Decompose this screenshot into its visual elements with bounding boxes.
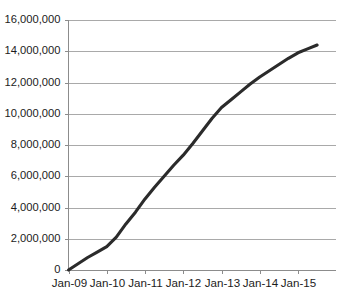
y-axis-tick-label: 10,000,000 (5, 107, 61, 119)
line-chart: 16,000,00014,000,00012,000,00010,000,000… (0, 0, 342, 297)
y-axis-tick-label: 0 (54, 263, 60, 275)
x-axis-tick-labels: Jan-09Jan-10Jan-11Jan-12Jan-13Jan-14Jan-… (52, 276, 316, 289)
x-axis-tick-label: Jan-13 (205, 276, 240, 289)
y-axis-tick-label: 2,000,000 (11, 232, 61, 244)
x-axis-tick-label: Jan-10 (90, 276, 125, 289)
x-axis-tick-label: Jan-12 (166, 276, 201, 289)
y-axis-tick-label: 16,000,000 (5, 13, 61, 25)
x-axis-tick-label: Jan-15 (281, 276, 316, 289)
y-axis-tick-label: 4,000,000 (11, 201, 61, 213)
x-axis-tick-label: Jan-11 (128, 276, 163, 289)
chart-container: 16,000,00014,000,00012,000,00010,000,000… (0, 0, 342, 297)
y-axis-tick-label: 14,000,000 (5, 44, 61, 56)
data-series-line (69, 45, 318, 270)
x-axis-tick-label: Jan-09 (52, 276, 87, 289)
x-axis-tick-label: Jan-14 (243, 276, 279, 289)
y-axis-tick-label: 6,000,000 (11, 169, 61, 181)
gridlines (69, 21, 337, 271)
y-axis-tick-label: 8,000,000 (11, 138, 61, 150)
y-axis-tick-label: 12,000,000 (5, 76, 61, 88)
tick-marks (65, 21, 299, 275)
y-axis-tick-labels: 16,000,00014,000,00012,000,00010,000,000… (5, 13, 61, 275)
